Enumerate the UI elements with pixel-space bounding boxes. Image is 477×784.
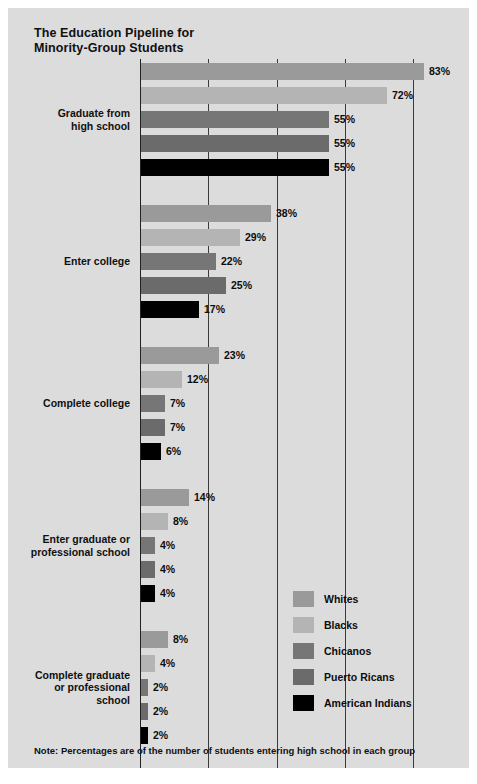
- bar-value-label: 6%: [166, 443, 181, 460]
- chart-note: Note: Percentages are of the number of s…: [34, 745, 415, 756]
- category-label: Complete college: [8, 397, 130, 410]
- legend-label: Whites: [324, 589, 358, 609]
- chart-panel: The Education Pipeline for Minority-Grou…: [8, 8, 469, 768]
- bar-value-label: 4%: [160, 561, 175, 578]
- bar-value-label: 4%: [160, 537, 175, 554]
- bar: [141, 513, 168, 530]
- bar-value-label: 22%: [221, 253, 242, 270]
- legend-label: American Indians: [324, 693, 412, 713]
- legend-swatch-icon: [293, 643, 314, 659]
- bar: [141, 655, 155, 672]
- bar-value-label: 23%: [224, 347, 245, 364]
- bar: [141, 87, 387, 104]
- bar: [141, 277, 226, 294]
- bar-value-label: 7%: [170, 419, 185, 436]
- bar: [141, 727, 148, 744]
- bar-value-label: 8%: [173, 513, 188, 530]
- bar: [141, 679, 148, 696]
- bar: [141, 63, 424, 80]
- bar-value-label: 17%: [204, 301, 225, 318]
- legend-swatch-icon: [293, 617, 314, 633]
- bar-value-label: 55%: [334, 159, 355, 176]
- bar: [141, 395, 165, 412]
- legend-label: Blacks: [324, 615, 358, 635]
- bar-chart-plot-area: 020406080Percent of Cohort83%72%55%55%55…: [8, 8, 469, 768]
- bar: [141, 111, 329, 128]
- bar-value-label: 7%: [170, 395, 185, 412]
- bar-value-label: 55%: [334, 111, 355, 128]
- bar-value-label: 29%: [245, 229, 266, 246]
- bar-value-label: 38%: [276, 205, 297, 222]
- bar: [141, 347, 219, 364]
- bar-value-label: 4%: [160, 585, 175, 602]
- bar-value-label: 2%: [153, 679, 168, 696]
- bar: [141, 301, 199, 318]
- legend-label: Puerto Ricans: [324, 667, 395, 687]
- bar: [141, 537, 155, 554]
- bar: [141, 703, 148, 720]
- bar: [141, 561, 155, 578]
- category-label: Enter graduate or professional school: [8, 533, 130, 558]
- bar-value-label: 25%: [231, 277, 252, 294]
- bar-value-label: 8%: [173, 631, 188, 648]
- category-label: Complete graduate or professional school: [8, 669, 130, 707]
- category-label: Enter college: [8, 255, 130, 268]
- bar-value-label: 4%: [160, 655, 175, 672]
- gridline-80: [413, 59, 414, 768]
- bar: [141, 371, 182, 388]
- bar-value-label: 2%: [153, 727, 168, 744]
- bar: [141, 229, 240, 246]
- bar-value-label: 72%: [392, 87, 413, 104]
- bar-value-label: 14%: [194, 489, 215, 506]
- bar: [141, 419, 165, 436]
- category-label: Graduate from high school: [8, 107, 130, 132]
- bar-value-label: 55%: [334, 135, 355, 152]
- bar: [141, 253, 216, 270]
- bar: [141, 489, 189, 506]
- bar: [141, 443, 161, 460]
- bar: [141, 205, 271, 222]
- bar-value-label: 83%: [429, 63, 450, 80]
- bar-value-label: 2%: [153, 703, 168, 720]
- legend-label: Chicanos: [324, 641, 371, 661]
- bar: [141, 159, 329, 176]
- bar: [141, 135, 329, 152]
- bar: [141, 631, 168, 648]
- legend-swatch-icon: [293, 669, 314, 685]
- legend-swatch-icon: [293, 695, 314, 711]
- legend-swatch-icon: [293, 591, 314, 607]
- bar-value-label: 12%: [187, 371, 208, 388]
- bar: [141, 585, 155, 602]
